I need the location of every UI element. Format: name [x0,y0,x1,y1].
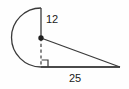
geometry-canvas [0,0,129,89]
center-vertex-dot [38,35,43,40]
geometry-figure: 12 25 [0,0,129,89]
base-length-label: 25 [69,73,81,84]
radius-length-label: 12 [46,14,58,25]
triangle-hypotenuse-line [41,38,120,67]
right-angle-marker-icon [42,60,48,67]
semicircle-arc [12,8,41,67]
